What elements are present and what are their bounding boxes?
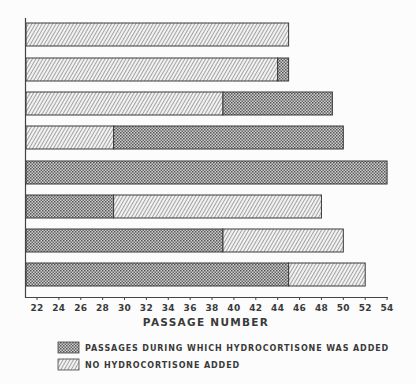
segment-no-hydrocortisone [114, 195, 322, 218]
bar-5 [26, 161, 387, 184]
segment-no-hydrocortisone [223, 229, 343, 252]
bar-2 [26, 58, 289, 81]
segment-no-hydrocortisone [26, 126, 114, 149]
bar-6 [26, 195, 321, 218]
x-tick-label: 38 [205, 303, 218, 313]
x-tick-label: 48 [315, 303, 328, 313]
segment-no-hydrocortisone [26, 92, 223, 115]
bar-8 [26, 263, 365, 286]
legend-swatch-diagonal [58, 359, 79, 370]
bar-1 [26, 23, 289, 46]
x-tick-label: 22 [30, 303, 43, 313]
segment-hydrocortisone [26, 229, 223, 252]
x-tick-label: 54 [381, 303, 394, 313]
x-tick-label: 26 [74, 303, 87, 313]
legend: PASSAGES DURING WHICH HYDROCORTISONE WAS… [58, 342, 389, 370]
x-tick-label: 42 [249, 303, 262, 313]
segment-hydrocortisone [278, 58, 289, 81]
x-axis-ticks: 2224262830323436384042444648505254 [30, 297, 393, 313]
bar-3 [26, 92, 332, 115]
x-tick-label: 52 [359, 303, 372, 313]
segment-hydrocortisone [26, 195, 114, 218]
x-tick-label: 36 [184, 303, 197, 313]
x-tick-label: 40 [227, 303, 240, 313]
bars-group [26, 23, 387, 286]
segment-hydrocortisone [26, 161, 387, 184]
legend-swatch-crosshatch [58, 342, 79, 353]
segment-no-hydrocortisone [26, 23, 289, 46]
x-tick-label: 28 [96, 303, 109, 313]
segment-no-hydrocortisone [289, 263, 366, 286]
bar-7 [26, 229, 343, 252]
legend-label-no-hydrocortisone: NO HYDROCORTISONE ADDED [85, 361, 240, 370]
segment-hydrocortisone [26, 263, 289, 286]
segment-no-hydrocortisone [26, 58, 278, 81]
bar-4 [26, 126, 343, 149]
x-tick-label: 34 [162, 303, 175, 313]
stacked-bar-chart: 2224262830323436384042444648505254 PASSA… [0, 0, 416, 384]
x-tick-label: 32 [140, 303, 153, 313]
legend-label-hydrocortisone: PASSAGES DURING WHICH HYDROCORTISONE WAS… [85, 344, 389, 353]
segment-hydrocortisone [223, 92, 332, 115]
x-axis-title: PASSAGE NUMBER [143, 316, 269, 328]
legend-item-hydrocortisone: PASSAGES DURING WHICH HYDROCORTISONE WAS… [58, 342, 389, 353]
x-tick-label: 50 [337, 303, 350, 313]
legend-item-no-hydrocortisone: NO HYDROCORTISONE ADDED [58, 359, 240, 370]
x-tick-label: 46 [293, 303, 306, 313]
x-tick-label: 30 [118, 303, 131, 313]
x-tick-label: 44 [271, 303, 284, 313]
segment-hydrocortisone [114, 126, 344, 149]
x-tick-label: 24 [52, 303, 65, 313]
